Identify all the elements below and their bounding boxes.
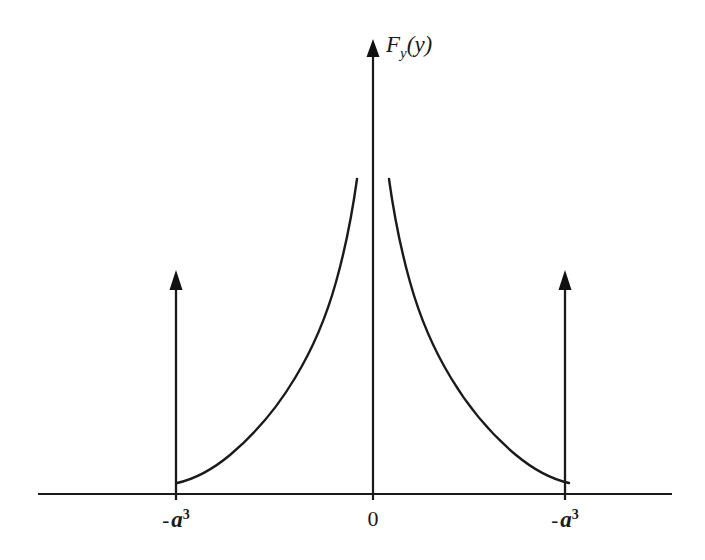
x-tick-left-symbol: a bbox=[171, 507, 183, 532]
y-axis-label-argument: (y) bbox=[407, 32, 433, 57]
right-impulse-arrowhead bbox=[559, 270, 572, 290]
x-tick-left-minus: - bbox=[162, 508, 169, 532]
right-density-branch bbox=[389, 179, 569, 483]
x-tick-right-symbol: a bbox=[560, 507, 572, 532]
plot-svg bbox=[0, 0, 705, 560]
y-axis-label-subscript: y bbox=[400, 45, 407, 61]
x-tick-left-exponent: 3 bbox=[183, 507, 190, 522]
x-tick-right-exponent: 3 bbox=[572, 507, 579, 522]
figure-canvas: Fy(y) -a3 0 -a3 bbox=[0, 0, 705, 560]
x-tick-label-right: -a3 bbox=[551, 508, 579, 531]
y-axis-label-main: F bbox=[386, 32, 400, 57]
y-axis-label: Fy(y) bbox=[386, 33, 432, 56]
left-impulse-arrowhead bbox=[170, 270, 183, 290]
x-tick-label-center: 0 bbox=[368, 508, 379, 530]
x-tick-label-left: -a3 bbox=[162, 508, 190, 531]
y-axis-arrowhead bbox=[367, 39, 380, 57]
left-density-branch bbox=[177, 179, 357, 483]
x-tick-right-minus: - bbox=[551, 508, 558, 532]
